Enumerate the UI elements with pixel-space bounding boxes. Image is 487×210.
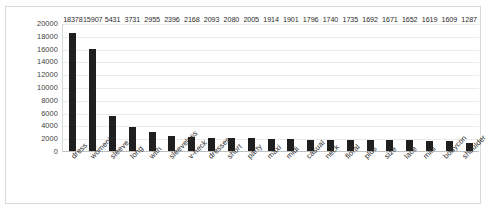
bar-slot: 2005 [241,24,261,151]
bar-slot: 1287 [459,24,479,151]
bar-slot: 3731 [122,24,142,151]
y-axis-tick: 20000 [37,20,58,27]
bar-slot: 2955 [142,24,162,151]
bar-value-label: 1735 [342,16,358,23]
bar-value-label: 1796 [303,16,319,23]
bar-series: 1837815907543137312955239621682093208020… [63,24,479,151]
bar-value-label: 2093 [204,16,220,23]
y-axis-tick: 2000 [41,135,58,142]
x-axis-label-slot: party [238,154,258,210]
bar-value-label: 1609 [442,16,458,23]
bar-value-label: 5431 [105,16,121,23]
bar-slot: 1652 [400,24,420,151]
x-axis-label-slot: sleeveless [160,154,180,210]
x-axis-label-slot: dresses [199,154,219,210]
bar-value-label: 3731 [125,16,141,23]
bar-value-label: 2005 [243,16,259,23]
bar-slot: 5431 [103,24,123,151]
chart-screenshot: 2000018000160001400012000100008000600040… [0,0,487,210]
x-axis-label-slot: with [140,154,160,210]
x-axis-label-slot: casual [297,154,317,210]
x-axis-label-slot: plus [356,154,376,210]
bar[interactable]: 15907 [89,49,96,151]
bar-value-label: 1740 [323,16,339,23]
bar-value-label: 15907 [83,16,103,23]
x-axis-label-slot: dress [62,154,82,210]
bar-value-label: 1652 [402,16,418,23]
bar-value-label: 1692 [362,16,378,23]
bar-slot: 2080 [222,24,242,151]
y-axis-tick: 12000 [37,71,58,78]
x-axis-label-slot: v-neck [179,154,199,210]
y-axis-tick: 14000 [37,59,58,66]
chart-frame: 2000018000160001400012000100008000600040… [5,6,481,204]
bar-value-label: 2168 [184,16,200,23]
bar-slot: 15907 [83,24,103,151]
x-axis-label-slot: size [375,154,395,210]
bar-value-label: 1914 [263,16,279,23]
bar-slot: 1609 [439,24,459,151]
y-axis: 2000018000160001400012000100008000600040… [31,24,61,152]
bar-slot: 1619 [420,24,440,151]
bar-value-label: 2955 [144,16,160,23]
bar-slot: 1901 [281,24,301,151]
y-axis-tick: 16000 [37,46,58,53]
bar-value-label: 1619 [422,16,438,23]
x-axis-label-slot: bodycon [434,154,454,210]
bar-slot: 2396 [162,24,182,151]
bar-slot: 18378 [63,24,83,151]
bar-value-label: 2080 [224,16,240,23]
x-axis-label-slot: shoulder [454,154,474,210]
bar-value-label: 1901 [283,16,299,23]
x-axis-label-slot: midi [277,154,297,210]
bar-value-label: 1671 [382,16,398,23]
plot-area: 1837815907543137312955239621682093208020… [62,24,479,152]
bar-slot: 1692 [360,24,380,151]
x-axis-label-slot: mini [414,154,434,210]
bar-slot: 1671 [380,24,400,151]
y-axis-tick: 0 [54,148,58,155]
y-axis-tick: 10000 [37,84,58,91]
bar-slot: 1796 [301,24,321,151]
x-axis-label-slot: maxi [258,154,278,210]
x-axis-label-slot: sleeve [101,154,121,210]
bar-slot: 1740 [321,24,341,151]
plot-wrapper: 2000018000160001400012000100008000600040… [31,24,481,152]
bar-value-label: 18378 [63,16,83,23]
x-axis-label-slot: long [121,154,141,210]
bar-value-label: 2396 [164,16,180,23]
y-axis-tick: 18000 [37,33,58,40]
bar-value-label: 1287 [461,16,477,23]
bar-slot: 1914 [261,24,281,151]
x-axis-label-slot: short [219,154,239,210]
bar-slot: 2093 [202,24,222,151]
x-axis-label-slot: lace [395,154,415,210]
x-axis-label-slot: floral [336,154,356,210]
x-axis-label-slot: neck [317,154,337,210]
bar[interactable]: 18378 [69,33,76,151]
y-axis-tick: 4000 [41,123,58,130]
bar-slot: 1735 [340,24,360,151]
y-axis-tick: 6000 [41,110,58,117]
x-axis-label-slot: women's [82,154,102,210]
y-axis-tick: 8000 [41,97,58,104]
x-axis-category-labels: dresswomen'ssleevelongwithsleevelessv-ne… [62,154,473,210]
